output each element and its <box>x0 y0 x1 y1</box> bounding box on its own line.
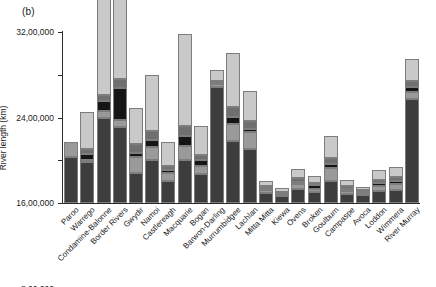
bar-segment <box>259 193 273 203</box>
bar-segment <box>291 189 305 203</box>
bar-segment <box>291 182 305 185</box>
bar-avoca <box>356 187 370 203</box>
caption-text <box>10 280 430 285</box>
bar-goulburn <box>324 136 338 203</box>
bar-kiewa <box>275 188 289 203</box>
bar-castlereagh <box>161 142 175 203</box>
bar-segment <box>161 173 175 180</box>
bar-segment <box>372 170 386 180</box>
bar-segment <box>243 121 257 129</box>
bar-segment <box>389 181 403 184</box>
bar-border-rivers <box>113 0 127 203</box>
bar-segment <box>64 142 78 157</box>
bar-segment <box>340 189 354 191</box>
bar-segment <box>291 178 305 181</box>
bar-segment <box>340 186 354 188</box>
bar-segment <box>259 190 273 193</box>
bar-segment <box>389 177 403 181</box>
bar-segment <box>210 81 224 83</box>
bar-segment <box>194 126 208 155</box>
bar-segment <box>308 185 322 188</box>
panel-letter: (b) <box>22 6 35 17</box>
bar-segment <box>161 166 175 170</box>
bar-broken <box>308 176 322 203</box>
bar-paroo <box>64 142 78 203</box>
bar-segment <box>113 120 127 127</box>
bar-segment <box>97 111 111 117</box>
bar-segment <box>389 184 403 190</box>
bar-segment <box>356 193 370 195</box>
bar-segment <box>243 132 257 148</box>
bar-segment <box>97 0 111 95</box>
bar-segment <box>226 124 240 141</box>
bar-segment <box>308 189 322 193</box>
bar-segment <box>308 183 322 185</box>
bar-segment <box>113 88 127 120</box>
x-axis-line <box>62 203 420 204</box>
bar-segment <box>210 70 224 81</box>
bar-segment <box>210 84 224 86</box>
bar-bogan <box>194 126 208 203</box>
y-axis-title: River length (km) <box>0 78 8 198</box>
bar-segment <box>324 136 338 158</box>
bar-segment <box>129 157 143 173</box>
bar-segment <box>405 92 419 99</box>
bar-segment <box>389 167 403 177</box>
bar-segment <box>324 181 338 203</box>
bar-segment <box>194 155 208 160</box>
bar-segment <box>80 112 94 148</box>
bar-segment <box>161 142 175 166</box>
bar-segment <box>194 166 208 175</box>
bar-ovens <box>291 169 305 203</box>
bar-segment <box>226 107 240 117</box>
bar-segment <box>243 149 257 204</box>
bar-segment <box>275 188 289 192</box>
bar-segment <box>243 91 257 121</box>
bar-lachlan <box>243 91 257 203</box>
bar-segment <box>356 195 370 203</box>
bar-segment <box>80 154 94 160</box>
bar-segment <box>226 117 240 124</box>
bar-segment <box>194 160 208 166</box>
bar-segment <box>405 99 419 203</box>
bar-segment <box>259 181 273 187</box>
bar-segment <box>80 149 94 154</box>
bar-segment <box>97 118 111 204</box>
bar-barwon-darling <box>210 70 224 203</box>
bar-segment <box>356 187 370 190</box>
bar-segment <box>226 53 240 107</box>
bar-segment <box>275 196 289 203</box>
bar-river-murray <box>405 59 419 203</box>
bar-macquarie <box>178 34 192 203</box>
bar-segment <box>129 144 143 153</box>
bar-segment <box>308 192 322 203</box>
bar-segment <box>226 141 240 203</box>
y-axis-tick-label: 24,00,000 <box>16 113 54 122</box>
bar-segment <box>145 131 159 140</box>
bar-segment <box>161 170 175 173</box>
bar-segment <box>113 79 127 88</box>
plot-area <box>63 32 420 203</box>
bar-segment <box>80 162 94 203</box>
bar-wimmera <box>389 167 403 203</box>
bar-segment <box>291 169 305 179</box>
bar-segment <box>145 160 159 203</box>
bar-segment <box>145 147 159 160</box>
bar-segment <box>324 158 338 164</box>
bar-segment <box>340 180 354 186</box>
bar-segment <box>80 160 94 162</box>
bar-segment <box>275 194 289 196</box>
bar-segment <box>243 129 257 133</box>
y-axis-tick-label: 16,00,000 <box>16 199 54 208</box>
bar-namoi <box>145 75 159 203</box>
bar-segment <box>145 140 159 147</box>
bar-segment <box>308 176 322 183</box>
bar-segment <box>97 95 111 101</box>
bar-segment <box>194 174 208 203</box>
bar-segment <box>178 146 192 160</box>
bar-murrumbidgee <box>226 53 240 203</box>
bar-segment <box>64 157 78 203</box>
figure-panel-b: (b) 08,00,00016,00,00024,00,00032,00,000… <box>0 0 436 287</box>
bar-segment <box>389 190 403 203</box>
bar-segment <box>178 160 192 203</box>
